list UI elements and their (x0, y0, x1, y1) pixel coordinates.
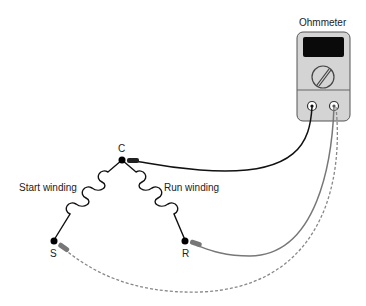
node-r-label: R (182, 249, 189, 259)
node-s-label: S (50, 249, 57, 259)
start-winding-label: Start winding (19, 183, 77, 193)
run-winding-label: Run winding (164, 183, 219, 193)
gray-probe-tip (189, 239, 202, 247)
node-r-terminal (182, 238, 189, 245)
meter-display (303, 37, 344, 57)
dashed-test-lead (64, 107, 337, 292)
circuit-drawing (0, 0, 366, 306)
diagram: Ohmmeter C S R Start winding Run winding (0, 0, 366, 306)
node-c-label: C (118, 144, 125, 154)
node-s-terminal (51, 238, 58, 245)
black-test-lead (134, 107, 312, 171)
node-c-terminal (119, 157, 126, 164)
start-winding-coil (54, 160, 122, 240)
black-probe-tip (127, 158, 139, 163)
run-winding-coil (122, 160, 185, 240)
dashed-probe-tip (57, 242, 70, 253)
meter-title: Ohmmeter (299, 18, 346, 28)
ohmmeter (297, 32, 350, 121)
